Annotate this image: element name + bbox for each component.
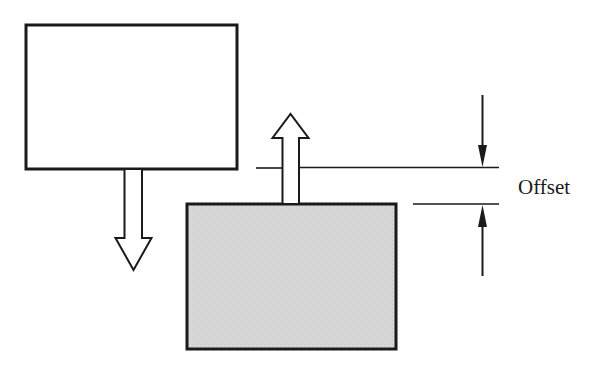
offset-label: Offset: [518, 177, 570, 198]
upper-box: [26, 25, 237, 169]
lower-box: [187, 204, 396, 349]
dimension-arrowhead-down-icon: [478, 145, 487, 167]
up-arrow-icon: [273, 114, 309, 203]
offset-diagram: [0, 0, 607, 368]
down-arrow-icon: [116, 170, 152, 270]
dimension-arrowhead-up-icon: [478, 205, 487, 227]
